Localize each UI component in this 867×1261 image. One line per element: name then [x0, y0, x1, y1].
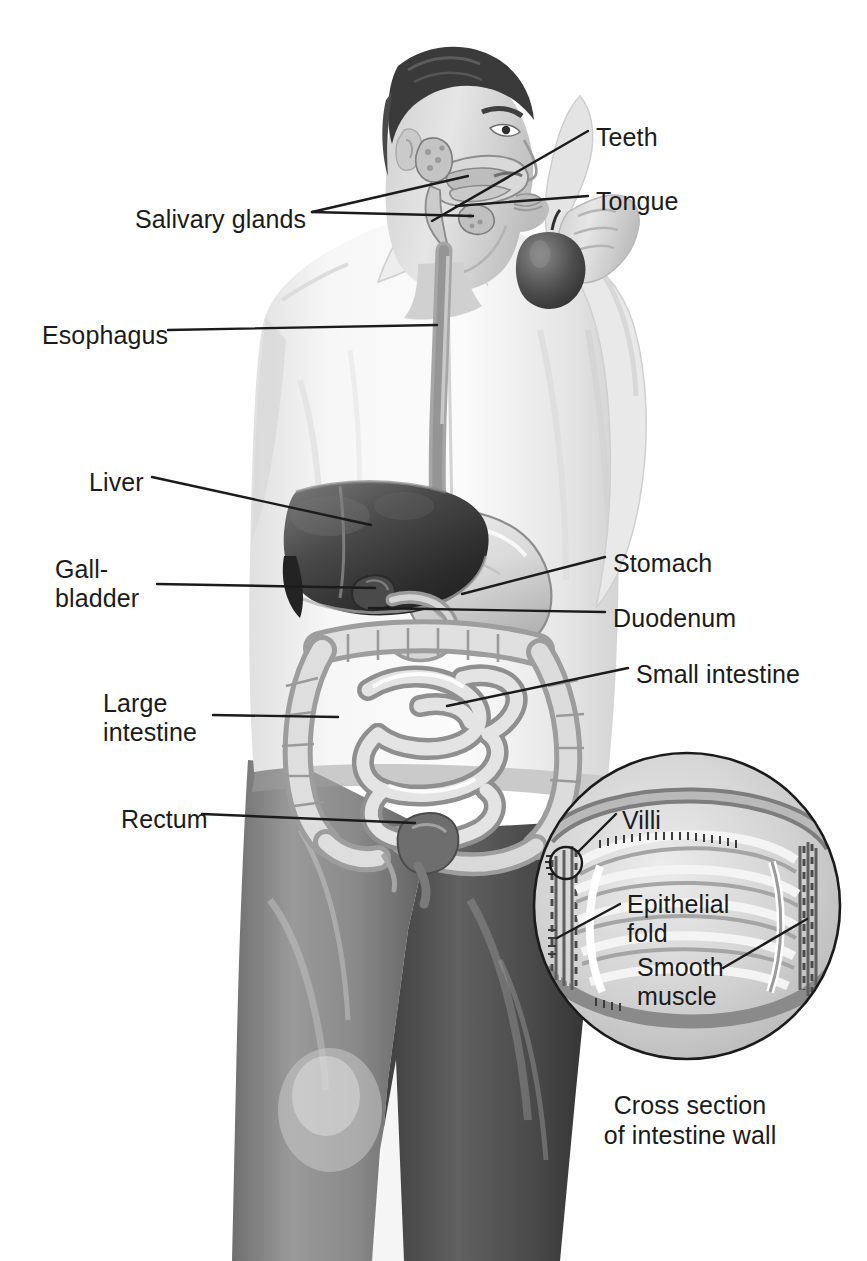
inset-caption-line1: Cross section [570, 1091, 810, 1120]
digestive-system-figure: Teeth Tongue Salivary glands Esophagus L… [0, 0, 867, 1261]
label-large-intestine: Large intestine [103, 689, 197, 747]
label-salivary-glands: Salivary glands [135, 205, 306, 234]
inset-caption-line2: of intestine wall [570, 1121, 810, 1150]
label-small-intestine: Small intestine [636, 660, 800, 689]
label-duodenum: Duodenum [613, 604, 736, 633]
anatomy-illustration [0, 0, 867, 1261]
label-gallbladder: Gall- bladder [55, 555, 139, 613]
label-smooth-muscle: Smooth muscle [637, 953, 724, 1011]
label-tongue: Tongue [596, 187, 679, 216]
label-epithelial-fold: Epithelial fold [627, 890, 729, 948]
label-teeth: Teeth [596, 123, 658, 152]
label-esophagus: Esophagus [42, 321, 168, 350]
label-stomach: Stomach [613, 549, 712, 578]
label-liver: Liver [89, 468, 144, 497]
label-villi: Villi [622, 806, 661, 835]
label-rectum: Rectum [121, 805, 208, 834]
